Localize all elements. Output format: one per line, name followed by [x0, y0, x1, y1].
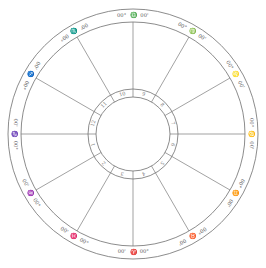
cusp-degree: 00° [249, 118, 255, 128]
house-number-8: 8 [159, 101, 165, 107]
astrology-chart-wheel: ♑00°00'♒00°00'♓00°00'♈00°00'♉00°00'♊00°0… [0, 0, 266, 268]
cusp-degree: 00° [79, 236, 90, 246]
house-ring-inner [96, 97, 170, 171]
zodiac-sign-icon: ♓ [70, 232, 78, 240]
zodiac-sign-icon: ♍ [189, 27, 197, 35]
zodiac-sign-icon: ♒ [27, 189, 35, 197]
zodiac-sign-icon: ♎ [130, 11, 138, 19]
house-number-7: 7 [170, 121, 177, 126]
cusp-line-house-12 [36, 78, 101, 116]
cusp-minute: 00' [249, 141, 255, 149]
zodiac-sign-icon: ♌ [232, 70, 240, 78]
zodiac-sign-icon: ♋ [248, 130, 256, 138]
cusp-degree: 00° [59, 33, 70, 43]
cusp-minute: 00' [32, 61, 41, 71]
house-number-3: 3 [120, 171, 125, 178]
cusp-degree: 00° [177, 21, 188, 31]
cusp-line-house-5 [152, 166, 190, 231]
cusp-degree: 00° [140, 248, 150, 254]
cusp-line-house-3 [77, 166, 115, 231]
cusp-labels: ♑00°00'♒00°00'♓00°00'♈00°00'♉00°00'♊00°0… [11, 11, 256, 256]
cusp-minute: 00' [177, 238, 187, 247]
house-number-1: 1 [89, 142, 96, 147]
cusp-line-house-9 [152, 37, 190, 102]
cusp-minute: 00' [118, 248, 126, 254]
house-number-9: 9 [141, 90, 146, 97]
cusp-degree: 00° [236, 178, 246, 189]
house-number-5: 5 [159, 160, 165, 166]
house-cusps [21, 22, 245, 246]
cusp-line-house-8 [165, 78, 230, 116]
cusp-minute: 00' [60, 225, 70, 234]
cusp-degree: 00° [32, 197, 42, 208]
cusp-minute: 00' [21, 178, 30, 188]
zodiac-sign-icon: ♊ [232, 189, 240, 197]
cusp-minute: 00' [140, 12, 148, 18]
cusp-minute: 00' [79, 22, 89, 31]
zodiac-sign-icon: ♐ [27, 70, 35, 78]
cusp-degree: 00° [13, 141, 19, 151]
cusp-line-house-2 [36, 153, 101, 191]
house-numbers: 123456789101112 [89, 90, 177, 178]
zodiac-sign-icon: ♑ [11, 130, 19, 138]
cusp-degree: 00° [21, 80, 31, 91]
house-number-2: 2 [100, 160, 106, 166]
zodiac-sign-icon: ♉ [189, 232, 197, 240]
cusp-degree: 00° [117, 12, 127, 18]
cusp-degree: 00° [225, 59, 235, 70]
cusp-minute: 00' [13, 119, 19, 127]
cusp-minute: 00' [225, 198, 234, 208]
zodiac-sign-icon: ♏ [70, 27, 78, 35]
house-number-12: 12 [89, 119, 96, 127]
cusp-minute: 00' [237, 80, 246, 90]
zodiac-sign-icon: ♈ [130, 248, 138, 256]
cusp-line-house-11 [77, 37, 115, 102]
house-number-6: 6 [170, 142, 177, 147]
cusp-degree: 00° [196, 226, 207, 236]
house-number-4: 4 [141, 171, 146, 178]
house-number-10: 10 [118, 90, 126, 97]
cusp-line-house-6 [165, 153, 230, 191]
cusp-minute: 00' [197, 32, 207, 41]
